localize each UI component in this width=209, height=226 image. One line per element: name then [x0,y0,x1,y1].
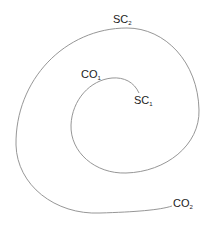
label-sc1: SC1 [134,95,153,107]
label-co2: CO2 [173,198,193,210]
label-sc2: SC2 [113,14,132,26]
spiral-diagram: SC2 CO1 SC1 CO2 [0,0,209,226]
label-co1: CO1 [81,69,101,81]
spiral-curve [0,0,209,226]
